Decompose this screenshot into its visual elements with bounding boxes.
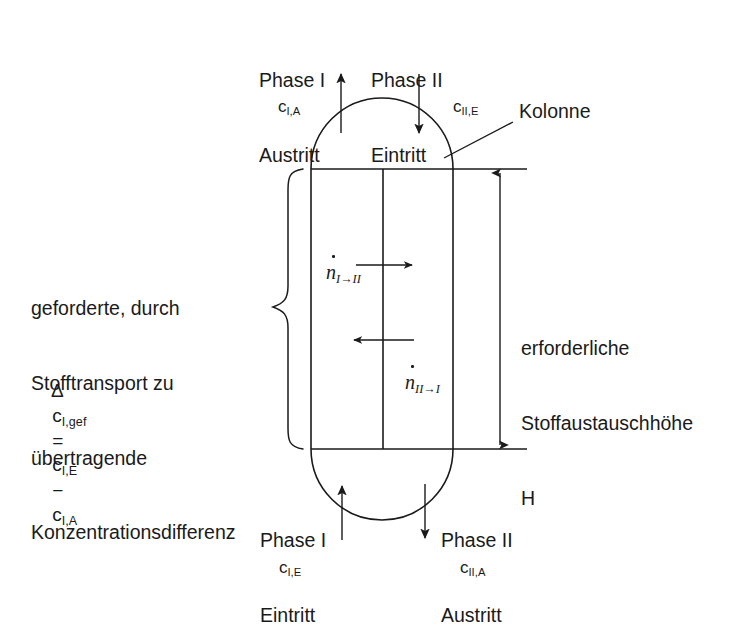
formula-term1-base: c [52,454,62,475]
concentration-sub-bottom-right: II,A [468,566,485,578]
exchange-height-line1: erforderliche [521,336,693,361]
stream-label-top-left-line2: Austritt [259,143,325,168]
required-text-line1: geforderte, durch [31,296,236,321]
exchange-height-label: erforderliche Stoffaustauschhöhe H [521,286,693,560]
flux-label-lower: nII→I [385,348,440,420]
flux-upper-sub: I→II [336,272,361,286]
concentration-difference-formula: Δ cI,gef = cI,E − cI,A [31,355,87,553]
stream-label-top-right-line1: Phase II [371,68,443,93]
flux-label-upper: nI→II [306,238,361,310]
formula-term2-base: c [52,504,62,525]
stream-label-top-right-line2: Eintritt [371,143,443,168]
concentration-label-bottom-left: cI,E [260,535,301,601]
formula-term2-sub: I,A [62,514,78,528]
flux-upper-symbol: n [326,261,336,284]
flux-lower-symbol: n [405,371,415,394]
formula-equals: = [52,430,63,451]
concentration-sub-top-right: II,E [461,105,478,117]
stream-label-bottom-left-line2: Eintritt [260,603,326,626]
kolonne-label: Kolonne [519,99,591,124]
formula-lhs-sub: I,gef [62,414,87,428]
formula-minus: − [52,480,63,501]
concentration-label-top-right: cII,E [434,74,479,140]
exchange-height-line2: Stoffaustauschhöhe [521,411,693,436]
concentration-sub-top-left: I,A [286,105,300,117]
concentration-label-top-left: cI,A [259,74,300,140]
formula-term1-sub: I,E [62,464,78,478]
flux-lower-sub: II→I [415,382,440,396]
formula-lhs-base: c [52,405,62,426]
flux-arrows [354,265,414,340]
stream-label-top-right: Phase II Eintritt [371,18,443,218]
stream-label-bottom-right-line2: Austritt [441,603,513,626]
exchange-height-symbol: H [521,486,693,511]
concentration-label-bottom-right: cII,A [441,535,486,601]
concentration-sub-bottom-left: I,E [287,566,301,578]
column-bottom-dome [311,449,453,520]
formula-delta-symbol: Δ [51,380,64,401]
